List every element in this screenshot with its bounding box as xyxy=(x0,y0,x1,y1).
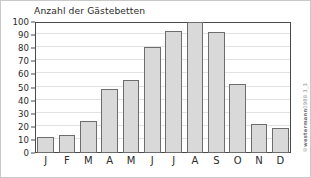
y-tick-label: 40 xyxy=(18,96,29,105)
x-tick-label: F xyxy=(64,156,70,166)
x-tick-label: S xyxy=(213,156,219,166)
y-axis: 0102030405060708090100 xyxy=(1,22,35,153)
bar xyxy=(208,32,225,153)
x-tick-label: A xyxy=(106,156,113,166)
page-title: Anzahl der Gästebetten xyxy=(34,5,145,16)
bar xyxy=(251,124,268,153)
x-tick-label: A xyxy=(192,156,199,166)
y-tick-label: 0 xyxy=(24,149,29,158)
x-tick-label: N xyxy=(255,156,262,166)
x-axis: JFMAMJJASOND xyxy=(35,153,291,175)
x-tick-label: J xyxy=(44,156,47,166)
y-tick-label: 10 xyxy=(18,136,29,145)
y-tick-label: 70 xyxy=(18,57,29,66)
bar xyxy=(187,22,204,153)
watermark-brand: westermann xyxy=(302,109,308,147)
bar xyxy=(165,31,182,153)
y-tick-label: 30 xyxy=(18,109,29,118)
watermark-copyright-symbol: © xyxy=(302,147,308,153)
bar xyxy=(229,84,246,153)
watermark-credit: ©westermann0988 3_3 xyxy=(303,83,308,153)
watermark-code: 0988 3_3 xyxy=(302,83,308,109)
y-tick-label: 100 xyxy=(13,18,29,27)
bar xyxy=(123,80,140,153)
x-tick-label: D xyxy=(276,156,284,166)
x-tick-label: J xyxy=(172,156,175,166)
y-tick-label: 80 xyxy=(18,44,29,53)
y-tick-label: 90 xyxy=(18,31,29,40)
bar xyxy=(272,128,289,153)
y-tick-label: 50 xyxy=(18,83,29,92)
bar xyxy=(80,121,97,153)
chart-figure: Anzahl der Gästebetten 01020304050607080… xyxy=(0,0,311,178)
x-tick-label: O xyxy=(234,156,242,166)
bar xyxy=(37,137,54,153)
bar xyxy=(144,47,161,153)
y-tick-label: 20 xyxy=(18,123,29,132)
x-tick-label: M xyxy=(127,156,136,166)
x-tick-label: J xyxy=(151,156,154,166)
bar-series xyxy=(35,22,291,153)
y-tick-label: 60 xyxy=(18,70,29,79)
x-tick-label: M xyxy=(84,156,93,166)
bar xyxy=(59,135,76,153)
bar xyxy=(101,89,118,153)
